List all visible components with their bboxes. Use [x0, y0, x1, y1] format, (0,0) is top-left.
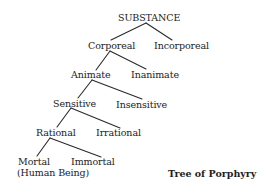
edge-sensitive-irrational	[71, 108, 120, 128]
edge-corporeal-inanimate	[110, 51, 146, 69]
edge-animate-insensitive	[92, 80, 142, 99]
node-animate: Animate	[71, 69, 110, 80]
node-inanimate: Inanimate	[131, 69, 179, 80]
edge-rational-immortal	[50, 138, 101, 157]
node-rational: Rational	[36, 127, 76, 138]
edge-sensitive-rational	[57, 108, 71, 127]
node-mortal: Mortal	[18, 156, 50, 167]
node-sensitive: Sensitive	[53, 98, 96, 109]
edge-substance-incorporeal	[146, 23, 172, 40]
node-irrational: Irrational	[96, 127, 141, 138]
edge-corporeal-animate	[96, 51, 110, 70]
node-substance: SUBSTANCE	[118, 12, 180, 23]
node-incorporeal: Incorporeal	[154, 40, 209, 51]
edge-rational-mortal	[37, 138, 50, 156]
node-mortal-note: (Human Being)	[17, 167, 89, 178]
node-corporeal: Corporeal	[88, 40, 135, 51]
node-immortal: Immortal	[71, 156, 115, 167]
node-insensitive: Insensitive	[116, 99, 167, 110]
edge-animate-sensitive	[78, 80, 92, 98]
tree-of-porphyry-diagram: SUBSTANCE Corporeal Incorporeal Animate …	[0, 0, 268, 196]
diagram-title: Tree of Porphyry	[168, 168, 256, 179]
edge-substance-corporeal	[111, 23, 146, 40]
